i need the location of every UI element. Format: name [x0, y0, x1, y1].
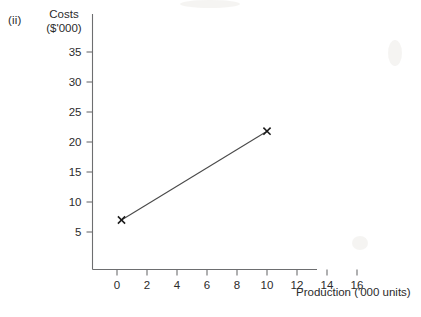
x-tick-label: 8 [234, 279, 240, 291]
y-tick-label: 35 [69, 46, 82, 58]
y-tick-label: 5 [75, 226, 81, 238]
x-axis-title: Production ('000 units) [296, 286, 411, 298]
x-tick-label: 4 [174, 279, 181, 291]
x-tick-label: 10 [261, 279, 274, 291]
data-series [118, 128, 271, 224]
y-tick-label: 15 [69, 166, 82, 178]
y-tick-label: 30 [69, 76, 82, 88]
axes [93, 14, 318, 270]
y-axis-ticks: 5101520253035 [69, 46, 93, 238]
y-tick-label: 25 [69, 106, 82, 118]
y-tick-label: 20 [69, 136, 82, 148]
plot-area: 5101520253035 0246810121416 [0, 0, 421, 317]
x-tick-label: 2 [144, 279, 150, 291]
series-line-total-cost [122, 131, 268, 220]
y-tick-label: 10 [69, 196, 82, 208]
chart-screenshot: (ii) Costs ($'000) 5101520253035 0246810… [0, 0, 421, 317]
x-tick-label: 0 [114, 279, 120, 291]
x-tick-label: 6 [204, 279, 210, 291]
